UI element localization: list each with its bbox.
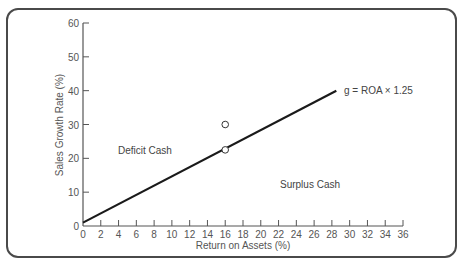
y-tick-label: 30	[68, 120, 80, 131]
y-tick-label: 20	[68, 153, 80, 164]
growth-line	[83, 91, 336, 223]
x-tick-label: 18	[237, 229, 249, 240]
x-tick-label: 8	[151, 229, 157, 240]
chart-canvas: 0246810121416182022242628303234360102030…	[0, 0, 461, 264]
data-point	[222, 147, 229, 154]
x-tick-label: 28	[326, 229, 338, 240]
x-tick-label: 26	[309, 229, 321, 240]
x-tick-label: 4	[116, 229, 122, 240]
x-tick-label: 6	[134, 229, 140, 240]
x-tick-label: 2	[98, 229, 104, 240]
x-tick-label: 12	[184, 229, 196, 240]
x-axis-title: Return on Assets (%)	[196, 240, 290, 251]
y-tick-label: 10	[68, 187, 80, 198]
x-tick-label: 0	[80, 229, 86, 240]
plot-area	[83, 91, 336, 223]
y-tick-label: 60	[68, 18, 80, 29]
x-tick-label: 36	[397, 229, 409, 240]
x-tick-label: 20	[255, 229, 267, 240]
x-tick-label: 22	[273, 229, 285, 240]
y-tick-label: 0	[73, 221, 79, 232]
x-tick-label: 24	[291, 229, 303, 240]
surplus-cash-label: Surplus Cash	[280, 179, 340, 190]
deficit-cash-label: Deficit Cash	[118, 145, 172, 156]
x-tick-label: 10	[166, 229, 178, 240]
x-tick-label: 32	[362, 229, 374, 240]
x-tick-label: 30	[344, 229, 356, 240]
x-tick-label: 16	[220, 229, 232, 240]
y-axis-title: Sales Growth Rate (%)	[54, 74, 65, 176]
data-point	[222, 121, 229, 128]
axes: 0246810121416182022242628303234360102030…	[68, 18, 409, 240]
x-tick-label: 34	[380, 229, 392, 240]
y-tick-label: 40	[68, 86, 80, 97]
y-tick-label: 50	[68, 52, 80, 63]
line-equation-label: g = ROA × 1.25	[344, 85, 413, 96]
x-tick-label: 14	[202, 229, 214, 240]
